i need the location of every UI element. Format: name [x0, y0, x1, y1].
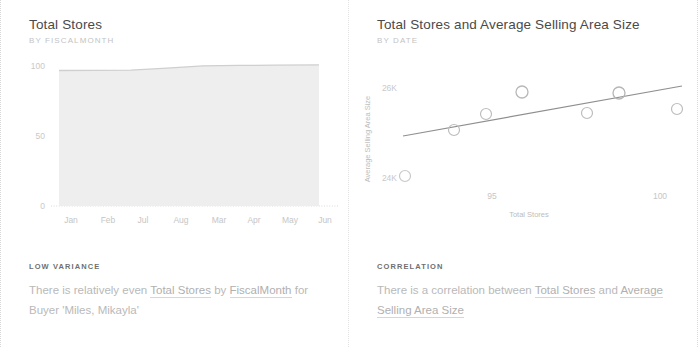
left-body-field-total-stores[interactable]: Total Stores — [150, 284, 211, 298]
left-body-mid1: by — [211, 284, 230, 296]
x-cat-aug: Aug — [173, 215, 188, 225]
scatter-point[interactable] — [672, 104, 683, 115]
left-insight-body: There is relatively even Total Stores by… — [29, 280, 326, 320]
scatter-chart-svg: Average Selling Area Size 26K 24K 95 100 — [349, 51, 698, 236]
right-body-pre: There is a correlation between — [377, 284, 535, 296]
left-insight-text-block: LOW VARIANCE There is relatively even To… — [29, 262, 326, 320]
left-body-pre: There is relatively even — [29, 284, 150, 296]
scatter-point[interactable] — [400, 171, 411, 182]
left-chart-header: Total Stores BY FISCALMONTH — [1, 0, 348, 45]
right-chart-header: Total Stores and Average Selling Area Si… — [349, 0, 697, 45]
scatter-point[interactable] — [516, 86, 528, 98]
x-cat-apr: Apr — [247, 215, 260, 225]
x-cat-feb: Feb — [101, 215, 116, 225]
insights-canvas: Total Stores BY FISCALMONTH 100 50 0 Jan… — [0, 0, 698, 347]
x-cat-mar: Mar — [212, 215, 227, 225]
x-cat-may: May — [282, 215, 299, 225]
stores-vs-area-scatter-chart[interactable]: Average Selling Area Size 26K 24K 95 100 — [349, 51, 698, 236]
x-tick-95: 95 — [487, 191, 497, 201]
x-cat-jan: Jan — [64, 215, 78, 225]
right-insight-body: There is a correlation between Total Sto… — [377, 280, 675, 320]
area-chart-svg: 100 50 0 Jan Feb Jul Aug Mar Apr May Jun — [1, 51, 350, 231]
left-insight-kicker: LOW VARIANCE — [29, 262, 326, 271]
y-tick-24k: 24K — [382, 173, 397, 183]
x-tick-100: 100 — [653, 191, 667, 201]
y-tick-26k: 26K — [382, 83, 397, 93]
right-chart-title: Total Stores and Average Selling Area Si… — [377, 16, 697, 33]
right-insight-text-block: CORRELATION There is a correlation betwe… — [377, 262, 675, 320]
area-fill — [59, 65, 319, 206]
right-body-mid1: and — [595, 284, 620, 296]
right-body-field-total-stores[interactable]: Total Stores — [535, 284, 596, 298]
x-cat-jun: Jun — [318, 215, 332, 225]
right-chart-subtitle: BY DATE — [377, 36, 697, 45]
x-cat-jul: Jul — [138, 215, 149, 225]
scatter-point[interactable] — [481, 109, 492, 120]
insight-card-correlation[interactable]: Total Stores and Average Selling Area Si… — [349, 0, 698, 347]
y-tick-100: 100 — [31, 61, 45, 71]
scatter-point[interactable] — [449, 125, 460, 136]
left-chart-subtitle: BY FISCALMONTH — [29, 36, 348, 45]
scatter-point[interactable] — [582, 108, 593, 119]
y-tick-0: 0 — [40, 201, 45, 211]
insight-card-low-variance[interactable]: Total Stores BY FISCALMONTH 100 50 0 Jan… — [0, 0, 349, 347]
y-tick-50: 50 — [36, 131, 46, 141]
y-axis-title: Average Selling Area Size — [363, 96, 372, 183]
trend-line — [403, 86, 682, 136]
total-stores-area-chart[interactable]: 100 50 0 Jan Feb Jul Aug Mar Apr May Jun — [1, 51, 350, 231]
left-chart-title: Total Stores — [29, 16, 348, 33]
x-axis-title: Total Stores — [509, 210, 549, 219]
right-insight-kicker: CORRELATION — [377, 262, 675, 271]
left-body-field-fiscalmonth[interactable]: FiscalMonth — [230, 284, 292, 298]
